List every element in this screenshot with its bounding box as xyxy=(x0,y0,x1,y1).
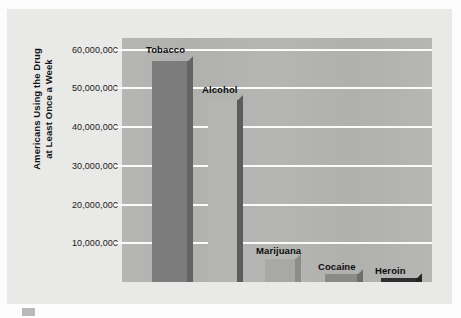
bar-label-marijuana: Marijuana xyxy=(256,245,301,256)
y-tick-label: 60,000,000 xyxy=(52,45,118,55)
bar-front-face xyxy=(265,259,295,282)
y-tick-label: 30,000,000 xyxy=(52,161,118,171)
page-edge-right xyxy=(452,0,461,318)
bar-heroin xyxy=(381,278,416,282)
bar-front-face xyxy=(325,274,357,282)
bar-label-alcohol: Alcohol xyxy=(202,84,238,95)
bar-front-face xyxy=(152,61,187,282)
bar-front-face xyxy=(208,100,237,282)
y-tick-label: 50,000,000 xyxy=(52,83,118,93)
bar-side-face xyxy=(295,259,301,282)
scan-corner-mark xyxy=(22,308,35,316)
bar-label-cocaine: Cocaine xyxy=(318,261,356,272)
bar-top-face xyxy=(357,269,363,275)
chart-figure: Americans Using the Drug at Least Once a… xyxy=(0,0,461,318)
y-axis-title-line-1: Americans Using the Drug xyxy=(31,48,44,170)
bar-label-tobacco: Tobacco xyxy=(146,44,185,55)
bar-tobacco xyxy=(152,61,187,282)
bar-side-face xyxy=(237,100,243,282)
bar-front-face xyxy=(381,278,416,282)
bar-label-heroin: Heroin xyxy=(375,265,406,276)
y-tick-label: 10,000,000 xyxy=(52,238,118,248)
page-edge-left xyxy=(0,0,7,318)
bar-top-face xyxy=(416,273,422,279)
y-tick-label: 40,000,000 xyxy=(52,122,118,132)
bar-side-face xyxy=(187,61,193,282)
y-axis-tick-labels: 10,000,00020,000,00030,000,00040,000,000… xyxy=(52,0,118,318)
bar-cocaine xyxy=(325,274,357,282)
y-tick-label: 20,000,000 xyxy=(52,200,118,210)
bar-alcohol xyxy=(208,100,237,282)
bar-side-face xyxy=(357,274,363,282)
bar-marijuana xyxy=(265,259,295,282)
